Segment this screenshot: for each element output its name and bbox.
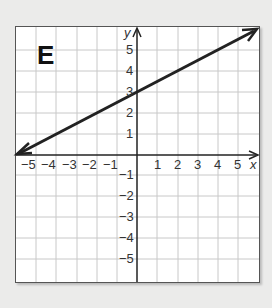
- x-tick-label: 1: [154, 158, 161, 171]
- x-tick-label: −2: [82, 158, 97, 171]
- x-tick-label: −1: [103, 158, 118, 171]
- x-tick-label: 4: [214, 158, 221, 171]
- x-tick-label: 2: [174, 158, 181, 171]
- panel-label: E: [37, 40, 54, 71]
- y-tick-label: −2: [119, 189, 134, 202]
- x-tick-label: −4: [41, 158, 56, 171]
- x-tick-label: −3: [62, 158, 77, 171]
- x-tick-label: 5: [234, 158, 241, 171]
- y-tick-label: 1: [126, 127, 133, 140]
- y-tick-label: −4: [119, 231, 134, 244]
- x-axis-label: x: [250, 157, 257, 172]
- x-tick-label: −5: [21, 158, 36, 171]
- y-tick-label: −1: [119, 168, 134, 181]
- y-tick-label: −5: [119, 252, 134, 265]
- y-tick-label: 3: [126, 85, 133, 98]
- x-tick-label: 3: [194, 158, 201, 171]
- y-tick-label: −3: [119, 210, 134, 223]
- y-axis-label: y: [124, 25, 131, 40]
- y-tick-label: 4: [126, 64, 133, 77]
- y-tick-label: 2: [126, 106, 133, 119]
- y-tick-label: 5: [126, 43, 133, 56]
